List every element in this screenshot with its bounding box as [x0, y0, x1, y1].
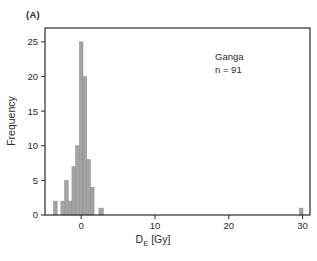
x-axis-label-unit: [Gy]	[148, 233, 170, 245]
annotation-block: Ganga n = 91	[215, 50, 244, 76]
histogram-bar	[68, 201, 72, 215]
histogram-canvas: 01020300510152025	[0, 0, 317, 261]
histogram-bar	[299, 208, 303, 215]
y-tick-label: 5	[33, 175, 38, 186]
histogram-figure: (A) 01020300510152025 Ganga n = 91 Frequ…	[0, 0, 317, 261]
y-tick-label: 0	[33, 209, 38, 220]
x-tick-label: 10	[150, 220, 161, 231]
x-tick-label: 20	[224, 220, 235, 231]
y-axis-label: Frequency	[5, 96, 17, 146]
y-tick-label: 15	[27, 106, 38, 117]
annotation-sample-count: n = 91	[215, 63, 244, 76]
histogram-bar	[83, 76, 87, 215]
y-tick-label: 10	[27, 140, 38, 151]
x-axis-label: DE [Gy]	[136, 233, 171, 248]
histogram-bar	[90, 187, 94, 215]
x-axis-label-symbol: D	[136, 233, 144, 245]
histogram-bar	[79, 42, 83, 215]
y-tick-label: 20	[27, 71, 38, 82]
histogram-bar	[99, 208, 103, 215]
x-tick-label: 0	[79, 220, 84, 231]
x-tick-label: 30	[297, 220, 308, 231]
histogram-bar	[87, 160, 91, 215]
y-tick-label: 25	[27, 36, 38, 47]
histogram-bar	[76, 146, 80, 215]
histogram-bar	[61, 201, 65, 215]
histogram-bar	[65, 180, 69, 215]
annotation-site-name: Ganga	[215, 50, 244, 63]
histogram-bar	[72, 167, 76, 215]
histogram-bar	[53, 201, 57, 215]
